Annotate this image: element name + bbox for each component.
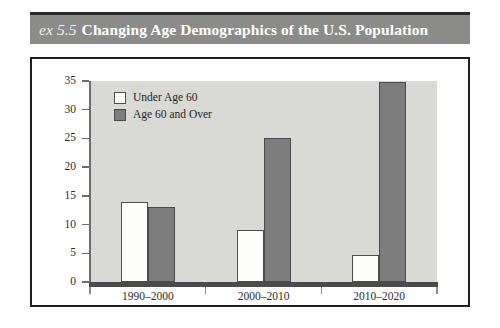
x-axis-category-label: 1990–2000 [88, 291, 208, 303]
bar-age-60-and-over-1990–2000 [148, 207, 175, 282]
exhibit-header-bar: ex 5.5Changing Age Demographics of the U… [30, 12, 470, 44]
legend-item-under-age-60: Under Age 60 [114, 89, 212, 106]
bar-age-60-and-over-2010–2020 [379, 82, 406, 282]
y-axis-tick-label: 5 [34, 247, 76, 259]
bar-under-age-60-1990–2000 [121, 202, 148, 282]
x-axis-baseline [89, 282, 438, 287]
y-axis-tick-label: 30 [34, 104, 76, 116]
bar-chart: 35302520151050 1990–20002000–20102010–20… [32, 59, 472, 309]
y-axis-tick [82, 281, 89, 283]
x-axis-category-label: 2010–2020 [319, 291, 439, 303]
y-axis-line [89, 81, 91, 282]
legend-item-age-60-and-over: Age 60 and Over [114, 106, 212, 123]
legend-swatch-age-60-and-over [114, 109, 126, 121]
y-axis-tick [82, 195, 89, 197]
y-axis-tick [82, 166, 89, 168]
legend-label-under-age-60: Under Age 60 [133, 92, 198, 104]
y-axis-tick [82, 80, 89, 82]
bar-age-60-and-over-2000–2010 [264, 138, 291, 282]
y-axis-tick [82, 109, 89, 111]
y-axis-tick-label: 15 [34, 190, 76, 202]
chart-legend: Under Age 60 Age 60 and Over [114, 89, 212, 123]
bar-under-age-60-2000–2010 [237, 230, 264, 282]
bar-under-age-60-2010–2020 [352, 255, 379, 282]
y-axis-tick [82, 224, 89, 226]
y-axis-tick-label: 10 [34, 219, 76, 231]
chart-figure-frame: 35302520151050 1990–20002000–20102010–20… [30, 57, 470, 307]
y-axis-tick-label: 25 [34, 132, 76, 144]
y-axis-tick [82, 253, 89, 255]
x-axis-category-label: 2000–2010 [204, 291, 324, 303]
legend-label-age-60-and-over: Age 60 and Over [133, 109, 212, 121]
exhibit-number: ex 5.5 [39, 21, 77, 38]
y-axis-tick-label: 35 [34, 75, 76, 87]
exhibit-header-text: ex 5.5Changing Age Demographics of the U… [39, 21, 428, 39]
legend-swatch-under-age-60 [114, 92, 126, 104]
y-axis-tick-label: 0 [34, 276, 76, 288]
y-axis-tick-label: 20 [34, 161, 76, 173]
exhibit-title: Changing Age Demographics of the U.S. Po… [82, 21, 429, 38]
y-axis-tick [82, 138, 89, 140]
